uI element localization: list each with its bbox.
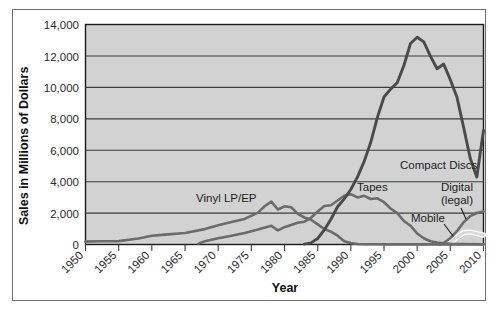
y-tick-2000: 2,000 [50,208,79,220]
y-tick-6000: 6,000 [50,145,79,157]
x-axis-tick-labels: 1950 1955 1960 1965 1970 1975 1980 1985 … [59,249,484,276]
y-tick-10000: 10,000 [44,82,79,94]
x-tick-1990: 1990 [324,249,351,276]
x-tick-1975: 1975 [225,249,252,276]
label-vinyl: Vinyl LP/EP [196,192,257,204]
chart-figure: 14,000 12,000 10,000 8,000 6,000 4,000 2… [0,0,498,319]
x-tick-1965: 1965 [158,249,185,276]
label-tapes: Tapes [357,181,388,193]
line-chart: 14,000 12,000 10,000 8,000 6,000 4,000 2… [0,0,498,319]
y-tick-8000: 8,000 [50,113,79,125]
x-axis-title: Year [272,281,299,295]
y-tick-12000: 12,000 [44,51,79,63]
label-digital-line1: Digital [441,181,473,193]
x-tick-1980: 1980 [258,249,285,276]
x-tick-1955: 1955 [92,249,119,276]
x-tick-2010: 2010 [457,249,484,276]
y-tick-4000: 4,000 [50,176,79,188]
x-tick-1960: 1960 [125,249,152,276]
y-axis-title: Sales in Millions of Dollars [17,67,31,225]
x-tick-2005: 2005 [424,249,451,276]
label-digital-line2: (legal) [441,194,473,206]
label-compact-discs: Compact Discs [400,159,478,171]
y-axis-tick-labels: 14,000 12,000 10,000 8,000 6,000 4,000 2… [44,19,79,251]
y-tick-14000: 14,000 [44,19,79,31]
x-tick-2000: 2000 [391,249,418,276]
x-tick-1970: 1970 [192,249,219,276]
x-tick-1985: 1985 [291,249,318,276]
label-mobile: Mobile [411,212,445,224]
x-tick-1995: 1995 [357,249,384,276]
x-tick-1950: 1950 [59,249,86,276]
